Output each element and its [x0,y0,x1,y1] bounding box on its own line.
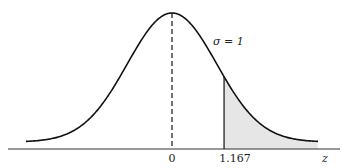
sigma-annotation: σ = 1 [213,35,244,48]
tick-label-cutoff: 1.167 [219,152,251,165]
tick-label-zero: 0 [169,152,176,165]
shaded-tail-area [224,77,318,149]
normal-distribution-chart: 0 1.167 z σ = 1 [0,0,346,168]
x-axis-label: z [321,152,328,165]
